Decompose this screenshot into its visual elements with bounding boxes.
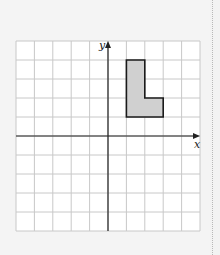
coordinate-plane: x y xyxy=(0,0,220,255)
y-axis-label: y xyxy=(98,39,106,52)
x-axis-label: x xyxy=(194,138,201,151)
